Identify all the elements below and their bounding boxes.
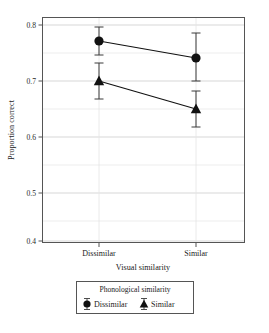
legend-title: Phonological similarity bbox=[99, 285, 170, 294]
legend: Phonological similarity Dissimilar Simil… bbox=[77, 282, 194, 314]
legend-marker-circle-icon bbox=[83, 300, 90, 307]
x-tick-label-dissimilar: Dissimilar bbox=[82, 249, 116, 258]
y-tick-label-0.6: 0.6 bbox=[27, 133, 37, 142]
x-tick-label-similar: Similar bbox=[184, 249, 208, 258]
legend-label-dissimilar: Dissimilar bbox=[94, 300, 128, 309]
y-tick-label-0.4: 0.4 bbox=[27, 237, 37, 246]
datapoint-dissimilar-dissimilar bbox=[94, 36, 103, 45]
line-chart: 0.8 0.7 0.6 0.5 0.4 Proportion correct D… bbox=[0, 0, 269, 333]
x-axis-title: Visual similarity bbox=[116, 263, 171, 272]
y-axis-title: Proportion correct bbox=[7, 99, 16, 160]
y-tick-label-0.8: 0.8 bbox=[27, 21, 37, 30]
plot-border bbox=[43, 18, 245, 243]
plot-area bbox=[43, 18, 245, 243]
figure-container: 0.8 0.7 0.6 0.5 0.4 Proportion correct D… bbox=[0, 0, 269, 333]
datapoint-dissimilar-similar bbox=[191, 53, 200, 62]
legend-label-similar: Similar bbox=[151, 300, 175, 309]
y-tick-label-0.7: 0.7 bbox=[27, 77, 37, 86]
y-tick-label-0.5: 0.5 bbox=[27, 189, 37, 198]
